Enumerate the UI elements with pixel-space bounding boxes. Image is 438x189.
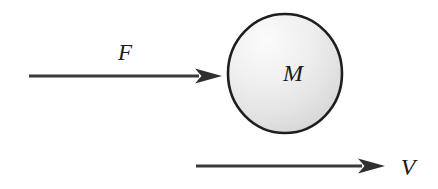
mass-body-group: M [228,14,342,133]
velocity-arrow-head-icon [358,159,385,174]
physics-diagram: F M V [0,0,438,189]
velocity-vector-group: V [196,154,418,180]
force-arrow-head-icon [195,69,222,84]
force-label: F [117,40,133,65]
mass-label: M [282,60,305,86]
velocity-label: V [401,154,418,180]
force-vector-group: F [29,40,222,84]
diagram-canvas: F M V [0,0,438,189]
